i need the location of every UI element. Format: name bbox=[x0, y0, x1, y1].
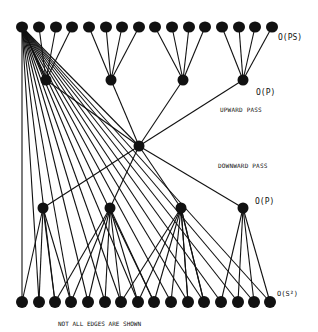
bottom-node bbox=[198, 296, 210, 308]
top-level-label: O(PS) bbox=[278, 33, 302, 42]
top-node bbox=[83, 22, 95, 33]
edge bbox=[139, 80, 183, 146]
edge bbox=[155, 27, 183, 80]
upper-p-node bbox=[238, 75, 249, 86]
top-node bbox=[50, 22, 62, 33]
bottom-node bbox=[99, 296, 111, 308]
upper-p-node bbox=[41, 75, 52, 86]
edge bbox=[22, 27, 55, 302]
edge bbox=[154, 208, 181, 302]
upper-p-level-label: O(P) bbox=[256, 88, 275, 97]
top-node bbox=[116, 22, 128, 33]
top-node bbox=[249, 22, 261, 33]
bottom-node bbox=[115, 296, 127, 308]
lower-p-node bbox=[176, 203, 187, 214]
bottom-node bbox=[264, 296, 276, 308]
top-node bbox=[166, 22, 178, 33]
bottom-node bbox=[49, 296, 61, 308]
edge bbox=[105, 208, 110, 302]
bottom-node bbox=[132, 296, 144, 308]
edge bbox=[221, 208, 243, 302]
top-node bbox=[216, 22, 228, 33]
edge bbox=[172, 27, 183, 80]
bottom-node bbox=[82, 296, 94, 308]
lower-p-level-label: O(P) bbox=[255, 197, 274, 206]
upper-p-node bbox=[106, 75, 117, 86]
bottom-node bbox=[33, 296, 45, 308]
top-node bbox=[33, 22, 45, 33]
top-node bbox=[199, 22, 211, 33]
top-node bbox=[16, 22, 28, 33]
top-node bbox=[100, 22, 112, 33]
edge bbox=[243, 27, 272, 80]
upward-pass-label: UPWARD PASS bbox=[220, 106, 262, 113]
bottom-node bbox=[65, 296, 77, 308]
bottom-node bbox=[165, 296, 177, 308]
bottom-level-label: O(S²) bbox=[277, 290, 298, 298]
bottom-node bbox=[182, 296, 194, 308]
edge bbox=[243, 208, 254, 302]
note-text: NOT ALL EDGES ARE SHOWN bbox=[58, 320, 141, 327]
edge bbox=[243, 27, 255, 80]
top-node bbox=[149, 22, 161, 33]
edge bbox=[46, 27, 72, 80]
lower-p-node bbox=[105, 203, 116, 214]
edge bbox=[55, 208, 110, 302]
edge bbox=[22, 27, 221, 302]
upper-p-node bbox=[178, 75, 189, 86]
bottom-node bbox=[148, 296, 160, 308]
edge bbox=[139, 146, 243, 208]
lower-p-node bbox=[238, 203, 249, 214]
edge bbox=[22, 27, 138, 302]
edge bbox=[110, 208, 138, 302]
edge bbox=[139, 80, 243, 146]
edge bbox=[111, 27, 139, 80]
lower-p-node bbox=[38, 203, 49, 214]
edge bbox=[243, 208, 270, 302]
edge bbox=[89, 27, 111, 80]
edge bbox=[22, 27, 238, 302]
top-node bbox=[266, 22, 278, 33]
top-node bbox=[133, 22, 145, 33]
edge bbox=[111, 27, 122, 80]
center-node bbox=[134, 141, 145, 152]
hierarchical-pass-diagram bbox=[0, 0, 318, 332]
top-node bbox=[183, 22, 195, 33]
edge bbox=[139, 146, 181, 208]
bottom-node bbox=[232, 296, 244, 308]
top-node bbox=[66, 22, 78, 33]
top-node bbox=[233, 22, 245, 33]
bottom-node bbox=[215, 296, 227, 308]
edge bbox=[22, 27, 171, 302]
bottom-node bbox=[248, 296, 260, 308]
bottom-node bbox=[16, 296, 28, 308]
edge bbox=[106, 27, 111, 80]
downward-pass-label: DOWNWARD PASS bbox=[218, 162, 268, 169]
